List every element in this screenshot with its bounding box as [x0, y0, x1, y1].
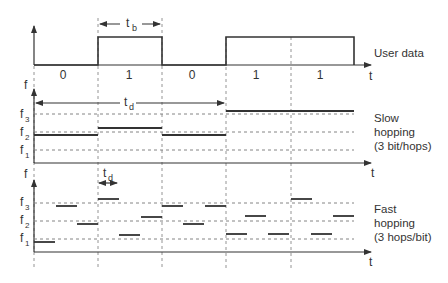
bit-2: 0 — [189, 68, 196, 82]
svg-text:b: b — [132, 23, 137, 33]
svg-text:d: d — [129, 102, 134, 112]
svg-text:f: f — [20, 213, 24, 227]
svg-text:f: f — [20, 195, 24, 209]
bit-3: 1 — [253, 68, 260, 82]
svg-text:d: d — [108, 173, 113, 183]
svg-text:t: t — [371, 166, 375, 180]
svg-text:f: f — [20, 231, 24, 245]
svg-text:(3 hops/bit): (3 hops/bit) — [374, 231, 432, 243]
user-data-label: User data — [374, 47, 424, 59]
svg-text:Fast: Fast — [374, 203, 397, 215]
svg-text:hopping: hopping — [374, 217, 415, 229]
user-data-panel: t b 0 1 0 1 1 t User data — [34, 16, 424, 83]
svg-text:f: f — [24, 167, 28, 181]
svg-text:f: f — [20, 143, 24, 157]
hopping-diagram: t b 0 1 0 1 1 t User data f t f 3 f 2 f … — [0, 0, 448, 283]
bit-4: 1 — [317, 68, 324, 82]
freq-axis-label: f — [24, 78, 28, 92]
svg-text:t: t — [103, 166, 107, 180]
fast-hop-segments — [34, 199, 354, 242]
bit-1: 1 — [126, 68, 133, 82]
svg-text:2: 2 — [25, 133, 30, 142]
svg-text:t: t — [369, 255, 373, 269]
svg-text:1: 1 — [25, 151, 30, 160]
svg-text:hopping: hopping — [374, 126, 415, 138]
time-axis-label: t — [369, 69, 373, 83]
user-data-signal — [34, 37, 354, 65]
svg-text:3: 3 — [25, 203, 30, 212]
svg-text:3: 3 — [25, 115, 30, 124]
svg-text:f: f — [20, 107, 24, 121]
svg-text:f: f — [20, 125, 24, 139]
svg-text:(3 bit/hops): (3 bit/hops) — [374, 140, 432, 152]
svg-text:Slow: Slow — [374, 112, 400, 124]
svg-text:2: 2 — [25, 221, 30, 230]
bit-0: 0 — [60, 68, 67, 82]
svg-text:1: 1 — [25, 239, 30, 248]
